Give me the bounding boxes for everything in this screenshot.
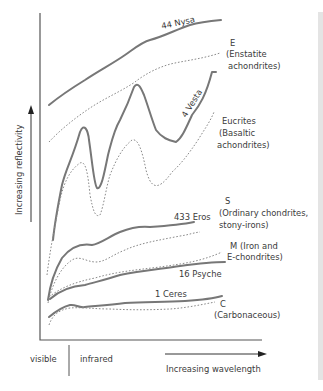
curve-16-psyche [50,262,225,299]
class-eucrites-desc1: (Basaltic [219,128,256,138]
class-e-desc1: (Enstatite [226,49,267,59]
curve-1-ceres [49,296,222,317]
class-c-desc1: (Carbonaceous) [214,310,280,320]
arrow-up-icon [28,105,34,114]
class-m-desc2: E-chondrites) [227,252,283,262]
label-44-nysa: 44 Nysa [160,14,195,31]
class-m-letter: M [230,241,237,251]
class-m-desc1: (Iron and [240,241,278,251]
class-c-letter: C [220,299,226,309]
label-infrared: infrared [80,354,113,364]
label-16-psyche: 16 Psyche [179,269,222,279]
label-433-eros: 433 Eros [174,212,211,222]
class-s-desc1: (Ordinary chondrites, [219,208,308,218]
class-eucrites-desc2: achondrites) [217,140,270,150]
x-axis-label: Increasing wavelength [166,364,261,374]
y-axis-label: Increasing reflectivity [14,124,24,215]
arrow-right-icon [258,351,267,357]
class-s-desc2: stony-irons) [219,220,269,230]
label-1-ceres: 1 Ceres [155,289,187,299]
class-s-letter: S [225,196,230,206]
class-e-letter: E [230,38,235,48]
class-eucrites-letter: Eucrites [222,116,256,126]
curve-eucrites [47,112,214,275]
class-e-desc2: achondrites) [228,61,281,71]
label-visible: visible [30,354,57,364]
spectra-diagram: Increasing reflectivity 44 Nysa 4 Vesta … [0,0,323,391]
